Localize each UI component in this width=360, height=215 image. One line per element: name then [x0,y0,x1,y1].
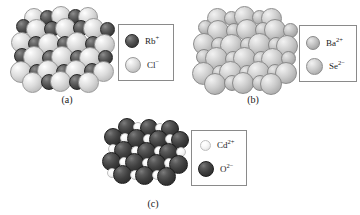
legend-swatch-o-icon [198,161,214,177]
legend-entry-se: Se2− [306,58,345,75]
legend-swatch-se-icon [306,58,323,75]
panel-c: Cd2+ O2− (c) [96,112,268,215]
legend-entry-rb: Rb+ [125,34,159,48]
atom-sphere [50,71,71,92]
crystal-lattice-rbcl [10,6,118,92]
panel-a: Rb+ Cl− (a) [4,2,174,110]
legend-label-rb: Rb+ [145,37,159,46]
legend-entry-cl: Cl− [125,57,159,73]
crystal-lattice-cdo [100,118,198,190]
legend-box-c: Cd2+ O2− [191,130,247,186]
panel-caption-a: (a) [52,94,82,105]
legend-entry-ba: Ba2+ [306,36,343,50]
legend-entry-o: O2− [198,161,233,177]
legend-entry-cd: Cd2+ [198,140,234,151]
atom-sphere [260,73,282,95]
panel-caption-b: (b) [238,94,268,105]
figure-ionic-crystal-structures: Rb+ Cl− (a) [0,0,360,215]
legend-label-ba: Ba2+ [326,39,343,48]
legend-label-cl: Cl− [147,61,159,70]
crystal-lattice-base [192,6,300,92]
legend-box-b: Ba2+ Se2− [299,25,357,82]
atom-sphere [22,72,43,93]
legend-swatch-ba-icon [306,36,320,50]
legend-swatch-cd-icon [200,140,211,151]
legend-swatch-rb-icon [125,34,139,48]
legend-swatch-cl-icon [125,57,141,73]
legend-label-cd: Cd2+ [217,141,234,150]
atom-sphere [78,72,99,93]
panel-b: Ba2+ Se2− (b) [186,2,358,110]
atom-sphere [204,73,226,95]
panel-caption-c: (c) [138,198,168,209]
legend-label-o: O2− [220,165,233,174]
atom-sphere [232,72,254,94]
atom-sphere [157,167,176,186]
legend-label-se: Se2− [329,62,345,71]
legend-box-a: Rb+ Cl− [118,24,174,81]
